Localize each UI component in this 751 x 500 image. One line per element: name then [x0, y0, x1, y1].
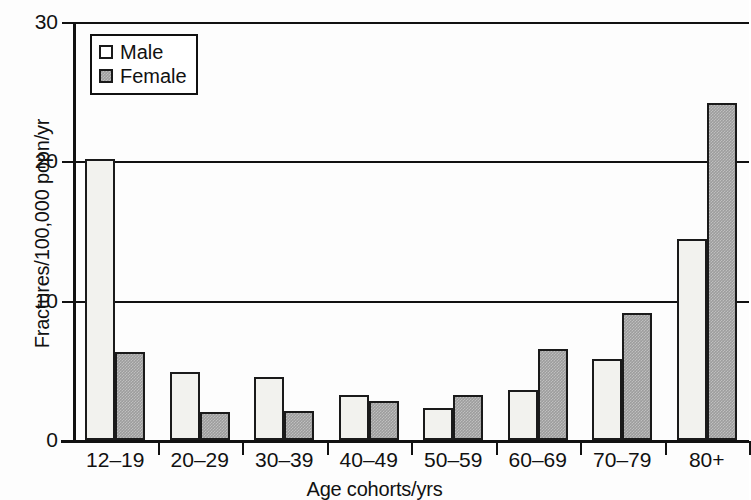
- bar-male-40_49: [339, 395, 369, 440]
- x-category-label-30_39: 30–39: [242, 449, 327, 471]
- bar-female-80+: [707, 103, 737, 440]
- x-category-label-12_19: 12–19: [73, 449, 158, 471]
- bar-female-30_39: [284, 411, 314, 440]
- bar-female-12_19: [115, 352, 145, 440]
- y-tick-label-20: 20: [0, 150, 58, 171]
- gridline-y-10: [73, 301, 749, 303]
- bar-female-40_49: [369, 401, 399, 440]
- bar-female-50_59: [453, 395, 483, 440]
- bar-female-70_79: [622, 313, 652, 440]
- legend-item-female: Female: [99, 64, 187, 88]
- gridline-y-30: [73, 22, 749, 24]
- bar-male-12_19: [85, 159, 115, 440]
- legend-swatch-female-icon: [99, 69, 113, 83]
- y-tick-label-10: 10: [0, 290, 58, 311]
- x-category-label-20_29: 20–29: [158, 449, 243, 471]
- legend-label-female: Female: [120, 66, 187, 86]
- x-category-label-40_49: 40–49: [327, 449, 412, 471]
- bar-male-20_29: [170, 372, 200, 440]
- bar-male-50_59: [423, 408, 453, 440]
- legend-label-male: Male: [120, 42, 163, 62]
- bar-female-20_29: [200, 412, 230, 440]
- x-category-label-60_69: 60–69: [496, 449, 581, 471]
- bar-male-80+: [677, 239, 707, 440]
- bar-male-60_69: [508, 390, 538, 440]
- chart-legend: Male Female: [90, 34, 198, 95]
- x-category-label-80+: 80+: [665, 449, 750, 471]
- x-axis-line: [61, 440, 749, 443]
- x-category-label-50_59: 50–59: [411, 449, 496, 471]
- y-axis-title: Fractures/100,000 popn/yr: [31, 34, 54, 434]
- bar-male-70_79: [592, 359, 622, 440]
- legend-swatch-male-icon: [99, 45, 113, 59]
- bar-male-30_39: [254, 377, 284, 440]
- y-tick-label-30: 30: [0, 11, 58, 32]
- x-category-label-70_79: 70–79: [580, 449, 665, 471]
- bar-female-60_69: [538, 349, 568, 440]
- x-axis-title: Age cohorts/yrs: [0, 478, 749, 500]
- legend-item-male: Male: [99, 40, 187, 64]
- gridline-y-20: [73, 161, 749, 163]
- y-tick-label-0: 0: [0, 429, 58, 450]
